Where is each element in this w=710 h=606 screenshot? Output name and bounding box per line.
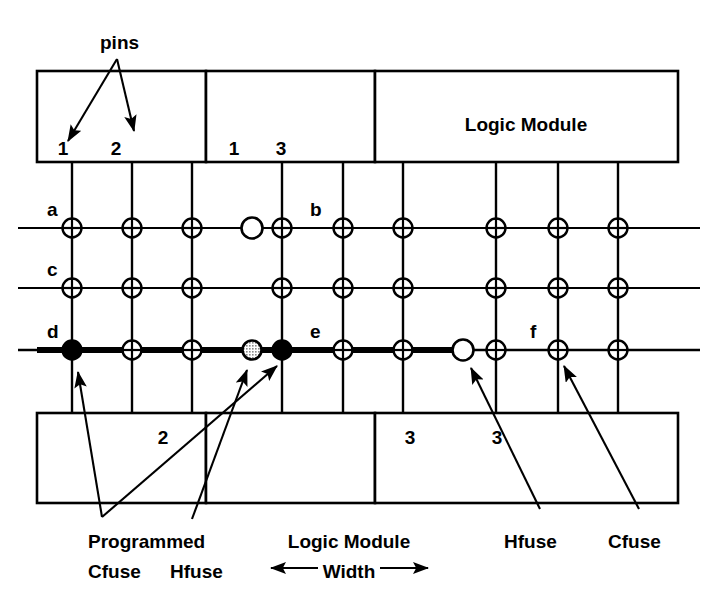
bottom-module-1[interactable] [37, 413, 206, 503]
fuse-open-cross[interactable] [609, 341, 628, 360]
diagram-root: acdbef1213233 Logic Module pins Programm… [0, 0, 710, 606]
top-pin-label-1: 1 [58, 138, 69, 159]
segment-label-f: f [530, 321, 537, 342]
track-label-d: d [47, 321, 59, 342]
fuse-open-cross[interactable] [183, 279, 202, 298]
fuse-open-cross[interactable] [123, 279, 142, 298]
fuse-open-cross[interactable] [394, 279, 413, 298]
programmed-hfuse-icon [243, 341, 262, 360]
bottom-pin-label-2: 2 [158, 427, 169, 448]
logic-module-width-line1: Logic Module [288, 531, 410, 552]
fuse-open-cross[interactable] [63, 279, 82, 298]
unprogrammed-hfuse-icon [453, 340, 474, 361]
fuse-open-cross[interactable] [334, 219, 353, 238]
segment-label-e: e [310, 321, 321, 342]
logic-module-title: Logic Module [465, 114, 587, 135]
fuse-open-cross[interactable] [609, 279, 628, 298]
fuse-open-cross[interactable] [487, 219, 506, 238]
fuse-open-cross[interactable] [487, 341, 506, 360]
fuse-programmed-cfuse[interactable] [63, 341, 82, 360]
bottom-module-3[interactable] [375, 413, 678, 503]
bottom-pin-label-3: 3 [405, 427, 416, 448]
fuse-hfuse-open[interactable] [242, 218, 263, 239]
fuse-programmed-cfuse[interactable] [273, 341, 292, 360]
cfuse-left-label: Cfuse [88, 561, 141, 582]
track-label-c: c [47, 259, 58, 280]
fuse-open-cross[interactable] [549, 341, 568, 360]
programmed-label: Programmed [88, 531, 205, 552]
routing-channel-diagram: acdbef1213233 Logic Module pins Programm… [0, 0, 710, 606]
fuse-open-cross[interactable] [549, 219, 568, 238]
fuse-open-cross[interactable] [123, 341, 142, 360]
fuse-open-cross[interactable] [273, 219, 292, 238]
fuse-open-cross[interactable] [123, 219, 142, 238]
fuse-open-cross[interactable] [549, 279, 568, 298]
pins-label: pins [100, 32, 139, 53]
cfuse-right-label: Cfuse [608, 531, 661, 552]
fuse-open-cross[interactable] [334, 341, 353, 360]
fuse-open-cross[interactable] [63, 219, 82, 238]
fuse-open-cross[interactable] [183, 219, 202, 238]
fuse-programmed-hfuse[interactable] [243, 341, 262, 360]
programmed-cfuse-icon [63, 341, 82, 360]
fuse-open-cross[interactable] [487, 279, 506, 298]
track-label-a: a [47, 199, 58, 220]
top-pin-label-2: 2 [111, 138, 122, 159]
fuse-open-cross[interactable] [183, 341, 202, 360]
hfuse-right-label: Hfuse [504, 531, 557, 552]
fuse-open-cross[interactable] [334, 279, 353, 298]
top-pin-label-1: 1 [229, 138, 240, 159]
fuse-open-cross[interactable] [273, 279, 292, 298]
programmed-cfuse-icon [273, 341, 292, 360]
hfuse-left-label: Hfuse [170, 561, 223, 582]
unprogrammed-hfuse-icon [242, 218, 263, 239]
top-pin-label-3: 3 [276, 138, 287, 159]
segment-label-b: b [310, 199, 322, 220]
fuse-hfuse-open[interactable] [453, 340, 474, 361]
bottom-module-2[interactable] [206, 413, 375, 503]
logic-module-width-line2: Width [323, 561, 376, 582]
fuse-open-cross[interactable] [394, 219, 413, 238]
fuse-open-cross[interactable] [609, 219, 628, 238]
fuse-open-cross[interactable] [394, 341, 413, 360]
